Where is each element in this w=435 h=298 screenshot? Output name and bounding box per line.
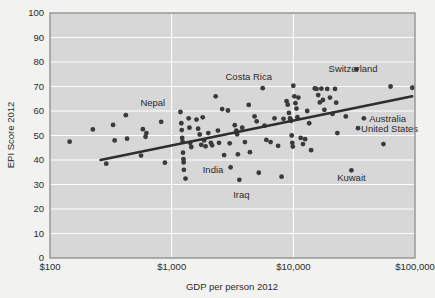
data-point bbox=[356, 126, 361, 131]
data-point bbox=[264, 138, 269, 143]
data-point bbox=[112, 138, 117, 143]
y-tick-20: 20 bbox=[33, 203, 44, 214]
data-point bbox=[111, 123, 116, 128]
data-point bbox=[179, 121, 184, 126]
data-point bbox=[293, 101, 298, 106]
data-point bbox=[206, 131, 211, 136]
data-point bbox=[183, 176, 188, 181]
data-point bbox=[187, 125, 192, 130]
data-point bbox=[189, 145, 194, 150]
data-point bbox=[200, 115, 205, 120]
data-point bbox=[316, 93, 321, 98]
data-point bbox=[227, 141, 232, 146]
data-point bbox=[243, 140, 248, 145]
data-point bbox=[307, 121, 312, 126]
data-point bbox=[222, 153, 227, 158]
data-point bbox=[194, 117, 199, 122]
data-point bbox=[213, 94, 218, 99]
x-tick-100: $100 bbox=[39, 261, 60, 272]
data-point bbox=[256, 170, 261, 175]
data-point bbox=[217, 140, 222, 145]
data-point bbox=[140, 127, 145, 132]
y-tick-60: 60 bbox=[33, 105, 44, 116]
x-tick-10000: $10,000 bbox=[276, 261, 310, 272]
data-point bbox=[333, 87, 338, 92]
data-point bbox=[410, 85, 415, 90]
y-tick-40: 40 bbox=[33, 154, 44, 165]
data-point bbox=[248, 150, 253, 155]
data-point bbox=[343, 114, 348, 119]
data-point bbox=[181, 160, 186, 165]
data-point bbox=[322, 107, 327, 112]
data-point bbox=[279, 174, 284, 179]
data-point bbox=[235, 152, 240, 157]
data-point bbox=[228, 165, 233, 170]
data-point bbox=[252, 114, 257, 119]
x-tick-1000: $1,000 bbox=[157, 261, 186, 272]
y-tick-100: 100 bbox=[28, 7, 44, 18]
data-point bbox=[303, 137, 308, 142]
data-point bbox=[237, 177, 242, 182]
data-point bbox=[199, 142, 204, 147]
data-point bbox=[321, 98, 326, 103]
data-point bbox=[159, 119, 164, 124]
data-point bbox=[220, 107, 225, 112]
data-point bbox=[163, 160, 168, 165]
data-point bbox=[335, 131, 340, 136]
data-point bbox=[298, 136, 303, 141]
data-point bbox=[104, 161, 109, 166]
data-point bbox=[268, 140, 273, 145]
annotation-kuwait: Kuwait bbox=[337, 172, 366, 183]
data-point bbox=[196, 126, 201, 131]
x-axis-title: GDP per person 2012 bbox=[186, 281, 278, 292]
data-point bbox=[294, 106, 299, 111]
data-point bbox=[305, 109, 310, 114]
scatter-plot: NepalCosta RicaSwitzerlandAustraliaUnite… bbox=[0, 0, 435, 298]
data-point bbox=[328, 95, 333, 100]
data-point bbox=[281, 116, 286, 121]
data-point bbox=[319, 86, 324, 91]
data-point bbox=[181, 150, 186, 155]
data-point bbox=[296, 95, 301, 100]
annotation-nepal: Nepal bbox=[140, 97, 165, 108]
data-point bbox=[203, 144, 208, 149]
y-tick-10: 10 bbox=[33, 228, 44, 239]
data-point bbox=[314, 87, 319, 92]
data-point bbox=[325, 87, 330, 92]
data-point bbox=[216, 128, 221, 133]
data-point bbox=[125, 136, 130, 141]
y-tick-80: 80 bbox=[33, 56, 44, 67]
data-point bbox=[178, 110, 183, 115]
data-point bbox=[287, 111, 292, 116]
annotation-india: India bbox=[203, 164, 224, 175]
data-point bbox=[139, 153, 144, 158]
data-point bbox=[272, 116, 277, 121]
data-point bbox=[240, 125, 245, 130]
data-point bbox=[254, 119, 259, 124]
y-tick-30: 30 bbox=[33, 179, 44, 190]
y-tick-70: 70 bbox=[33, 81, 44, 92]
data-point bbox=[210, 143, 215, 148]
y-tick-90: 90 bbox=[33, 32, 44, 43]
data-point bbox=[301, 142, 306, 147]
data-point bbox=[334, 100, 339, 105]
data-point bbox=[246, 102, 251, 107]
data-point bbox=[309, 148, 314, 153]
data-point bbox=[260, 86, 265, 91]
data-point bbox=[186, 116, 191, 121]
data-point bbox=[197, 132, 202, 137]
data-point bbox=[381, 142, 386, 147]
data-point bbox=[67, 139, 72, 144]
data-point bbox=[226, 108, 231, 113]
data-point bbox=[291, 83, 296, 88]
data-point bbox=[289, 133, 294, 138]
x-tick-100000: $100,000 bbox=[395, 261, 435, 272]
data-point bbox=[123, 113, 128, 118]
data-point bbox=[388, 84, 393, 89]
annotation-united-states: United States bbox=[361, 123, 418, 134]
data-point bbox=[276, 143, 281, 148]
data-point bbox=[290, 144, 295, 149]
y-tick-50: 50 bbox=[33, 130, 44, 141]
data-point bbox=[285, 102, 290, 107]
chart-figure: NepalCosta RicaSwitzerlandAustraliaUnite… bbox=[0, 0, 435, 298]
